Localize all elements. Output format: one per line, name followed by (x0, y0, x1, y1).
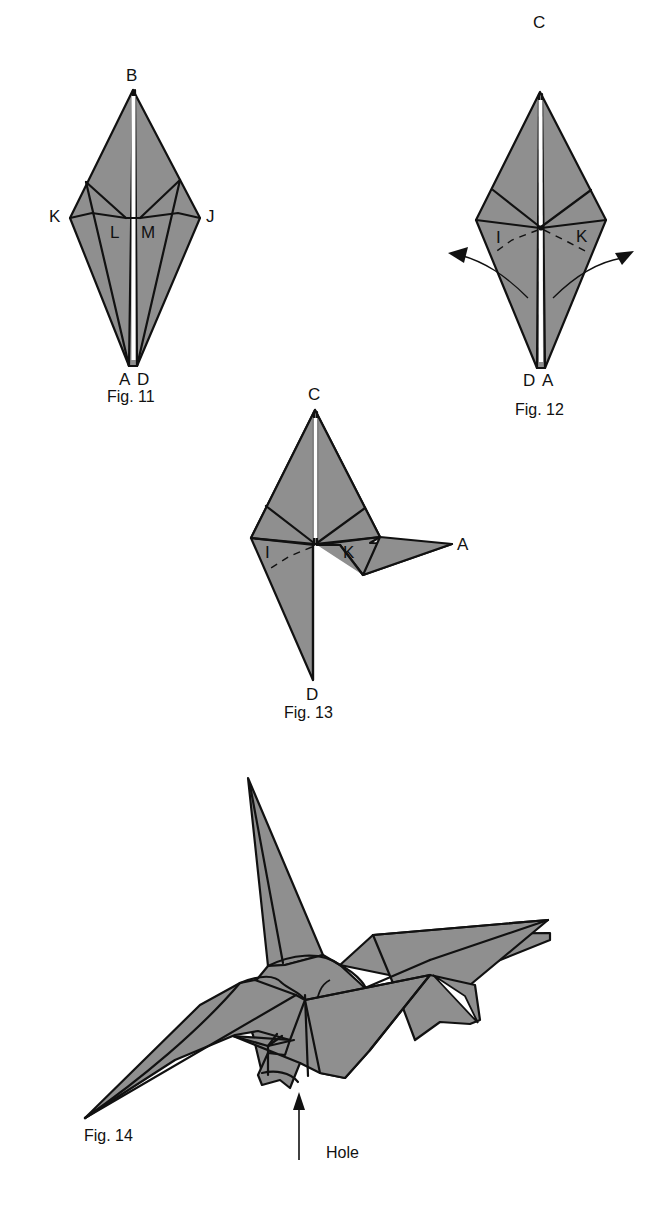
figure-12: C I K D A Fig. 12 (400, 0, 657, 430)
fig13-label-d: D (306, 686, 318, 703)
fig11-label-a: A (119, 371, 130, 388)
fig11-label-b: B (126, 67, 137, 84)
fig12-caption: Fig. 12 (515, 402, 564, 418)
fig11-label-m: M (141, 224, 155, 241)
fig12-label-d: D (523, 372, 535, 389)
figure-14: Fig. 14 Hole (0, 760, 657, 1215)
fig11-label-l: L (110, 224, 119, 241)
fig13-label-i: I (265, 544, 270, 561)
fig13-label-a: A (457, 536, 468, 553)
figure-11: B K J L M A D Fig. 11 (0, 0, 260, 420)
fig11-label-j: J (206, 208, 215, 225)
fig12-label-k: K (576, 228, 587, 245)
figure-13: C I K A D Fig. 13 (230, 380, 510, 720)
fig13-label-c: C (308, 386, 320, 403)
fig12-label-a: A (542, 372, 553, 389)
fig11-label-d: D (137, 371, 149, 388)
fig14-caption: Fig. 14 (84, 1128, 133, 1144)
fig11-caption: Fig. 11 (107, 389, 155, 405)
fig12-label-c: C (533, 14, 545, 31)
fig11-label-k: K (49, 208, 60, 225)
fig12-label-i: I (496, 229, 501, 246)
fig11-diagram (0, 0, 260, 420)
fig13-caption: Fig. 13 (284, 705, 333, 721)
fig12-diagram (400, 0, 657, 430)
fig13-label-k: K (343, 544, 354, 561)
fig14-hole-label: Hole (326, 1145, 359, 1161)
